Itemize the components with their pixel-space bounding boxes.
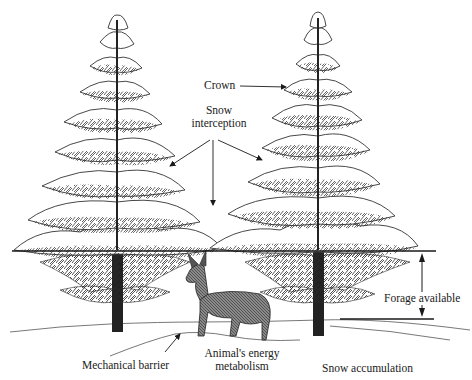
label-snow-accumulation: Snow accumulation: [322, 362, 413, 375]
label-animal-energy-metabolism: Animal's energy metabolism: [200, 347, 284, 373]
tree-left: [14, 15, 222, 332]
label-crown: Crown: [204, 79, 235, 92]
label-forage-available: Forage available: [383, 292, 461, 305]
label-snow-interception: Snow interception: [188, 104, 250, 130]
tree-right: [210, 12, 418, 336]
label-mechanical-barrier: Mechanical barrier: [82, 359, 169, 372]
forage-dimension-arrow: [419, 253, 425, 317]
label-snow-interception-line2: interception: [188, 117, 250, 130]
label-snow-interception-line1: Snow: [188, 104, 250, 117]
diagram-canvas: [0, 0, 472, 380]
label-energy-line2: metabolism: [200, 360, 284, 373]
label-energy-line1: Animal's energy: [200, 347, 284, 360]
